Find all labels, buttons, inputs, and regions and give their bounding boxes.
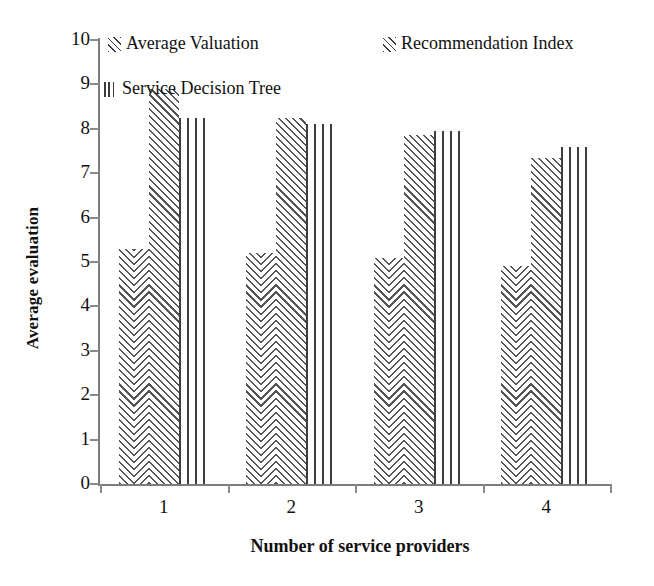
legend-item-service-decision-tree: Service Decision Tree bbox=[104, 78, 281, 99]
chevron-swatch-icon bbox=[108, 37, 121, 52]
bar-average-valuation-group-3 bbox=[374, 258, 404, 484]
legend-label: Average Valuation bbox=[126, 33, 259, 53]
bar-average-valuation-group-4 bbox=[501, 266, 531, 484]
x-axis-tick-label: 3 bbox=[399, 496, 439, 518]
legend-label: Service Decision Tree bbox=[122, 78, 281, 98]
legend-label: Recommendation Index bbox=[401, 33, 573, 53]
legend-item-average-valuation: Average Valuation bbox=[108, 33, 259, 54]
x-axis-tick-label: 4 bbox=[526, 496, 566, 518]
bar-service-decision-tree-group-4 bbox=[561, 147, 591, 484]
x-axis-tick-label: 1 bbox=[144, 496, 184, 518]
bars-layer bbox=[0, 0, 654, 486]
bar-average-valuation-group-1 bbox=[119, 249, 149, 484]
bar-recommendation-index-group-3 bbox=[404, 135, 434, 484]
x-axis-tick bbox=[228, 484, 230, 493]
x-axis-title: Number of service providers bbox=[110, 536, 610, 557]
bar-recommendation-index-group-4 bbox=[531, 158, 561, 484]
x-axis-tick bbox=[355, 484, 357, 493]
x-axis-tick-label: 2 bbox=[271, 496, 311, 518]
x-axis-tick bbox=[100, 484, 102, 493]
bar-average-valuation-group-2 bbox=[246, 253, 276, 484]
diagonal-swatch-icon bbox=[383, 37, 396, 52]
bar-chart-figure: Average evaluation 012345678910 1234 Num… bbox=[0, 0, 654, 586]
bar-recommendation-index-group-2 bbox=[276, 118, 306, 484]
bar-recommendation-index-group-1 bbox=[149, 89, 179, 484]
legend-item-recommendation-index: Recommendation Index bbox=[383, 33, 573, 54]
bar-service-decision-tree-group-3 bbox=[434, 131, 464, 484]
x-axis-tick bbox=[610, 484, 612, 493]
x-axis-tick bbox=[483, 484, 485, 493]
bar-service-decision-tree-group-1 bbox=[179, 118, 209, 484]
bar-service-decision-tree-group-2 bbox=[306, 124, 336, 484]
vertical-swatch-icon bbox=[104, 82, 117, 97]
